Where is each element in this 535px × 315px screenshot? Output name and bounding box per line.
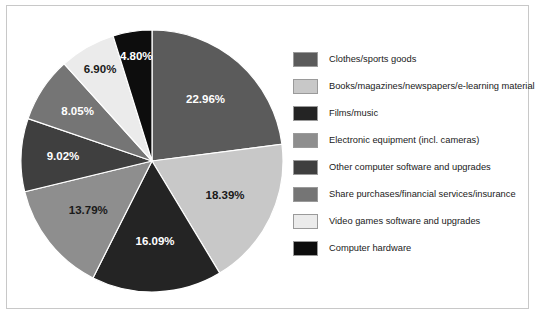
legend-item[interactable]: Share purchases/financial services/insur…: [293, 181, 535, 207]
legend-item[interactable]: Other computer software and upgrades: [293, 154, 535, 180]
pie-slice-value-label: 6.90%: [84, 63, 117, 75]
legend-item-label: Books/magazines/newspapers/e-learning ma…: [329, 81, 535, 91]
pie-plot-area: 22.96%18.39%16.09%13.79%9.02%8.05%6.90%4…: [20, 29, 284, 293]
legend-item[interactable]: Computer hardware: [293, 235, 535, 261]
legend-item[interactable]: Video games software and upgrades: [293, 208, 535, 234]
pie-svg: 22.96%18.39%16.09%13.79%9.02%8.05%6.90%4…: [20, 29, 284, 293]
legend-item-label: Other computer software and upgrades: [329, 162, 491, 172]
legend-color-swatch: [293, 241, 318, 256]
legend-color-swatch: [293, 52, 318, 67]
legend-color-swatch: [293, 160, 318, 175]
legend-item[interactable]: Clothes/sports goods: [293, 46, 535, 72]
legend-item-label: Share purchases/financial services/insur…: [329, 189, 516, 199]
legend-color-swatch: [293, 214, 318, 229]
legend-item-label: Electronic equipment (incl. cameras): [329, 135, 479, 145]
legend-item-label: Films/music: [329, 108, 378, 118]
legend-color-swatch: [293, 187, 318, 202]
legend-item[interactable]: Books/magazines/newspapers/e-learning ma…: [293, 73, 535, 99]
legend-item-label: Video games software and upgrades: [329, 216, 480, 226]
pie-slice-value-label: 8.05%: [61, 105, 94, 117]
chart-frame: 22.96%18.39%16.09%13.79%9.02%8.05%6.90%4…: [6, 5, 529, 309]
legend-item-label: Clothes/sports goods: [329, 54, 416, 64]
pie-slice-value-label: 16.09%: [136, 235, 175, 247]
legend-item-label: Computer hardware: [329, 243, 411, 253]
legend-color-swatch: [293, 79, 318, 94]
pie-slice-value-label: 18.39%: [206, 189, 245, 201]
pie-slice-value-label: 9.02%: [47, 150, 80, 162]
chart-legend: Clothes/sports goodsBooks/magazines/news…: [293, 46, 535, 262]
legend-item[interactable]: Electronic equipment (incl. cameras): [293, 127, 535, 153]
legend-color-swatch: [293, 133, 318, 148]
pie-chart-figure: 22.96%18.39%16.09%13.79%9.02%8.05%6.90%4…: [0, 0, 535, 315]
pie-slice-value-label: 13.79%: [69, 204, 108, 216]
legend-item[interactable]: Films/music: [293, 100, 535, 126]
pie-slice-value-label: 4.80%: [120, 50, 153, 62]
legend-color-swatch: [293, 106, 318, 121]
pie-slice-value-label: 22.96%: [186, 93, 225, 105]
